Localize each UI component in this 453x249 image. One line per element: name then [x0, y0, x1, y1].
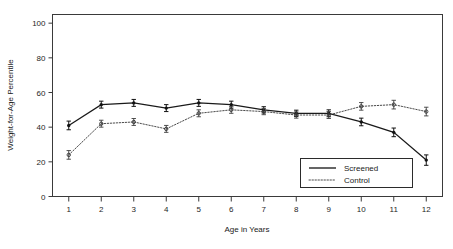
data-point	[230, 103, 233, 106]
y-tick-label: 100	[32, 19, 46, 28]
x-tick-label: 2	[99, 205, 104, 214]
data-point	[392, 131, 395, 134]
y-tick-label: 40	[37, 123, 46, 132]
chart-legend[interactable]: Screened Control	[301, 159, 413, 188]
x-tick-label: 5	[197, 205, 202, 214]
y-tick-label: 80	[37, 54, 46, 63]
data-point	[165, 106, 168, 109]
y-tick-label: 0	[41, 193, 46, 202]
x-tick-label: 3	[132, 205, 137, 214]
x-tick-label: 8	[294, 205, 299, 214]
x-tick-label: 1	[67, 205, 72, 214]
data-point	[67, 124, 70, 127]
x-axis-title: Age in Years	[225, 225, 270, 234]
x-tick-label: 9	[327, 205, 332, 214]
x-tick-label: 7	[262, 205, 267, 214]
line-chart: 020406080100 123456789101112 Screened Co…	[0, 0, 453, 249]
data-point	[360, 120, 363, 123]
x-tick-label: 11	[390, 205, 399, 214]
x-tick-label: 6	[229, 205, 234, 214]
data-point	[425, 158, 428, 161]
legend-label-control: Control	[344, 176, 370, 185]
data-point	[197, 101, 200, 104]
x-tick-label: 12	[422, 205, 431, 214]
data-point	[100, 103, 103, 106]
legend-label-screened: Screened	[344, 164, 378, 173]
y-axis-title: Weight-for-Age Percentile	[6, 59, 15, 151]
data-point	[132, 101, 135, 104]
y-tick-label: 60	[37, 89, 46, 98]
chart-figure: 020406080100 123456789101112 Screened Co…	[0, 0, 453, 249]
y-tick-label: 20	[37, 158, 46, 167]
x-tick-label: 4	[164, 205, 169, 214]
x-tick-label: 10	[357, 205, 366, 214]
